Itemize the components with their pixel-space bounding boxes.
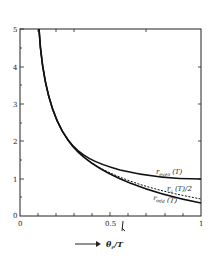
- y-tick-label: 3: [13, 101, 17, 109]
- arrowhead-icon: [96, 241, 101, 247]
- y-tick-label: 2: [13, 138, 17, 146]
- y-tick-label: 5: [13, 26, 17, 34]
- label-r-even: reven(T): [156, 168, 183, 177]
- x-axis-caption: θr/T: [75, 239, 124, 250]
- y-tick-label: 1: [13, 176, 17, 184]
- y-tick-label: 0: [13, 212, 17, 220]
- x-tick-label: 0.5: [105, 220, 116, 228]
- y-tick-label: 4: [13, 64, 18, 72]
- x-axis: [38, 29, 183, 216]
- curve-r-odd: [39, 29, 201, 203]
- cursor-mark: [122, 221, 125, 231]
- x-tick-label: 0: [18, 220, 22, 228]
- plot-frame: [20, 29, 201, 216]
- svg-text:θr/T: θr/T: [106, 239, 124, 250]
- label-r-odd: rodd(T): [153, 194, 178, 206]
- chart: 5 4 3 2 1 0 0 0.5 1 reven(T) rc(T)/2 rod…: [0, 0, 219, 265]
- label-r-c-half: rc(T)/2: [167, 185, 192, 194]
- x-tick-label: 1: [199, 220, 203, 228]
- curve-r-even: [39, 29, 201, 179]
